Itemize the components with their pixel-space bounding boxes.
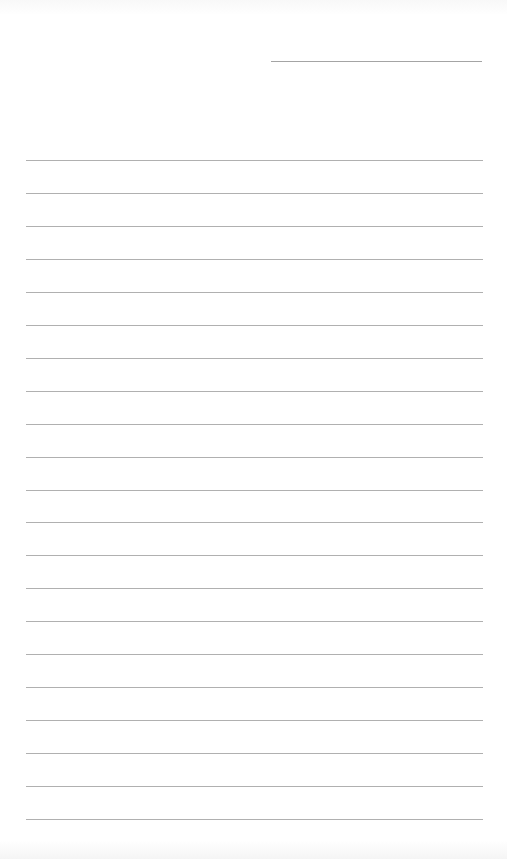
ruled-line xyxy=(26,259,483,260)
ruled-line xyxy=(26,522,483,523)
bleed-through-text-bottom xyxy=(0,841,507,859)
ruled-line xyxy=(26,687,483,688)
ruled-line xyxy=(26,457,483,458)
ruled-line xyxy=(26,654,483,655)
ruled-line xyxy=(26,424,483,425)
header-name-line xyxy=(271,61,482,62)
ruled-line xyxy=(26,325,483,326)
ruled-line xyxy=(26,753,483,754)
ruled-line xyxy=(26,819,483,820)
ruled-line xyxy=(26,391,483,392)
bleed-through-text-top xyxy=(0,0,507,14)
ruled-line xyxy=(26,292,483,293)
ruled-line xyxy=(26,358,483,359)
ruled-line xyxy=(26,555,483,556)
ruled-line xyxy=(26,786,483,787)
ruled-line xyxy=(26,490,483,491)
ruled-line xyxy=(26,621,483,622)
ruled-line xyxy=(26,226,483,227)
ruled-line xyxy=(26,160,483,161)
ruled-line xyxy=(26,588,483,589)
lined-paper-page xyxy=(0,0,507,859)
ruled-line xyxy=(26,720,483,721)
ruled-line xyxy=(26,193,483,194)
